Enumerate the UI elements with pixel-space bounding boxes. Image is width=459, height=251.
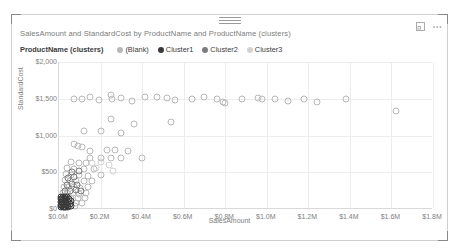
scatter-point[interactable]	[392, 107, 399, 114]
scatter-point[interactable]	[222, 100, 229, 107]
scatter-point[interactable]	[258, 95, 265, 102]
scatter-point[interactable]	[284, 97, 291, 104]
plot-area[interactable]	[58, 62, 432, 209]
scatter-point[interactable]	[77, 188, 84, 195]
scatter-point[interactable]	[110, 167, 117, 174]
scatter-point[interactable]	[238, 95, 245, 102]
gridline-vertical	[433, 62, 434, 208]
scatter-point[interactable]	[201, 94, 208, 101]
scatter-point[interactable]	[75, 167, 82, 174]
scatter-point[interactable]	[342, 96, 349, 103]
gridline-horizontal	[59, 62, 432, 63]
scatter-point[interactable]	[107, 154, 114, 161]
scatter-point[interactable]	[118, 155, 125, 162]
scatter-point[interactable]	[142, 94, 149, 101]
scatter-point[interactable]	[74, 182, 81, 189]
scatter-point[interactable]	[108, 95, 115, 102]
scatter-point[interactable]	[172, 97, 179, 104]
scatter-point[interactable]	[78, 144, 85, 151]
scatter-point[interactable]	[313, 98, 320, 105]
scatter-point[interactable]	[168, 119, 175, 126]
scatter-point[interactable]	[128, 97, 135, 104]
scatter-point[interactable]	[130, 120, 137, 127]
scatter-point[interactable]	[164, 95, 171, 102]
scatter-point[interactable]	[95, 97, 102, 104]
scatter-point[interactable]	[124, 147, 131, 154]
scatter-point[interactable]	[118, 95, 125, 102]
scatter-point[interactable]	[80, 128, 87, 135]
scatter-point[interactable]	[118, 129, 125, 136]
scatter-point[interactable]	[87, 94, 94, 101]
scatter-point[interactable]	[93, 164, 100, 171]
scatter-point[interactable]	[139, 154, 146, 161]
scatter-point[interactable]	[188, 95, 195, 102]
scatter-point[interactable]	[272, 95, 279, 102]
scatter-point[interactable]	[107, 115, 114, 122]
scatter-point[interactable]	[112, 147, 119, 154]
scatter-point[interactable]	[103, 147, 110, 154]
plot-wrapper: StandardCost $0$500$1,000$1,500$2,000 $0…	[11, 14, 448, 241]
scatter-point[interactable]	[97, 128, 104, 135]
scatter-point[interactable]	[97, 172, 104, 179]
scatter-chart-visual[interactable]: SalesAmount and StandardCost by ProductN…	[11, 14, 448, 241]
scatter-point[interactable]	[68, 203, 75, 210]
scatter-point[interactable]	[79, 96, 86, 103]
scatter-point[interactable]	[301, 95, 308, 102]
x-axis-title: SalesAmount	[11, 217, 448, 224]
scatter-point[interactable]	[78, 199, 85, 206]
scatter-point[interactable]	[153, 93, 160, 100]
scatter-point[interactable]	[70, 95, 77, 102]
gridline-horizontal	[59, 136, 432, 137]
